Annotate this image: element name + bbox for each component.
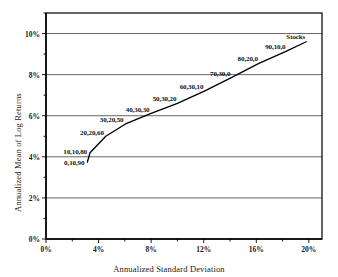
y-tick-label: 10%: [25, 29, 40, 38]
point-label: 70,30,0: [210, 70, 230, 78]
point-label: 80,20,0: [238, 55, 258, 63]
point-label: 90,10,0: [265, 43, 285, 51]
point-label: 0,10,90: [64, 159, 84, 167]
x-axis-title: Annualized Standard Deviation: [0, 264, 338, 274]
y-axis-title: Annualized Mean of Log Returns: [13, 93, 23, 212]
x-tick-label: 4%: [93, 245, 104, 254]
y-tick-label: 8%: [29, 70, 40, 79]
point-label: 30,20,50: [100, 116, 124, 124]
point-label: 60,30,10: [180, 83, 204, 91]
chart-plot-area: [0, 0, 338, 277]
point-label: 20,20,60: [80, 129, 104, 137]
series-line-efficient-frontier: [87, 42, 306, 162]
point-label: Stocks: [286, 33, 305, 41]
x-tick-label: 12%: [196, 245, 211, 254]
point-label: 50,30,20: [153, 95, 177, 103]
x-tick-label: 16%: [249, 245, 264, 254]
y-tick-label: 0%: [29, 235, 40, 244]
chart-container: Annualized Standard Deviation Annualized…: [0, 0, 338, 277]
y-tick-label: 2%: [29, 193, 40, 202]
y-tick-label: 6%: [29, 111, 40, 120]
x-tick-label: 8%: [146, 245, 157, 254]
x-tick-label: 0%: [40, 245, 51, 254]
point-label: 10,10,80: [63, 148, 87, 156]
x-tick-label: 20%: [301, 245, 316, 254]
point-label: 40,30,30: [126, 106, 150, 114]
y-tick-label: 4%: [29, 152, 40, 161]
